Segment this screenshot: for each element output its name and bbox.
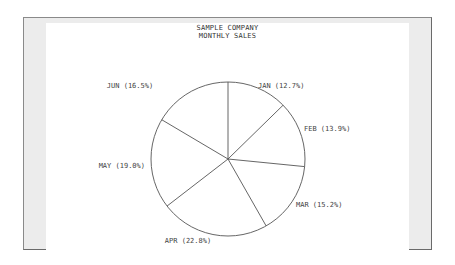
slice-label-jun: JUN (16.5%) — [107, 82, 153, 90]
slice-label-apr: APR (22.8%) — [165, 237, 211, 245]
slice-label-feb: FEB (13.9%) — [304, 125, 350, 133]
slice-label-jan: JAN (12.7%) — [258, 82, 304, 90]
slice-label-mar: MAR (15.2%) — [296, 201, 342, 209]
slice-label-may: MAY (19.0%) — [99, 162, 145, 170]
pie-chart: JAN (12.7%)FEB (13.9%)MAR (15.2%)APR (22… — [0, 0, 455, 265]
